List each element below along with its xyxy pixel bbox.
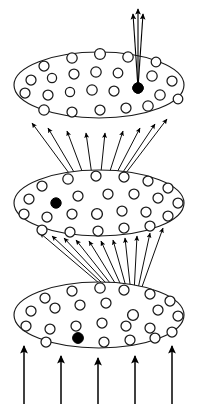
middle-layer-unit-9 [103,189,113,199]
bottom-layer-unit-11 [153,305,163,315]
top-layer-unit-13 [20,88,30,98]
bottom-layer-unit-6 [165,296,175,306]
bottom-layer-unit-16 [97,318,107,328]
middle-layer-unit-7 [24,194,34,204]
bottom-layer-unit-14 [45,324,55,334]
top-layer-unit-9 [91,67,101,77]
top-layer-unit-2 [67,53,77,63]
bottom-layer-unit-23 [150,333,160,343]
top-layer-unit-15 [65,87,74,96]
input-arrows-group [24,346,172,404]
top-layer-unit-14 [43,90,53,100]
bottom-layer-unit-8 [50,303,60,313]
bottom-layer-unit-7 [26,306,36,316]
middle-layer-unit-3 [91,171,101,181]
top-layer-unit-20 [39,105,49,115]
top-layer-unit-3 [95,49,106,60]
middle-layer-unit-4 [119,172,129,182]
bottom-layer-unit-20 [41,337,51,347]
output-origin-dot [133,83,143,93]
bottom-layer-unit-22 [125,335,135,345]
middle-layer-unit-18 [163,211,173,221]
top-layer [14,49,184,118]
middle-layer-unit-12 [173,198,183,208]
bottom-layer-unit-13 [21,321,31,331]
top-layer-unit-19 [173,94,183,104]
middle-layer [14,170,184,237]
bottom-layer-unit-10 [101,298,111,308]
middle-layer-unit-10 [129,189,139,199]
middle-layer-unit-19 [37,225,47,235]
bottom-layer-unit-17 [121,321,131,331]
middle-layer-unit-15 [67,209,77,219]
top-layer-unit-1 [39,61,49,71]
top-layer-unit-18 [155,90,165,100]
middle-layer-unit-21 [93,226,103,236]
bottom-layer-unit-12 [173,311,183,321]
bottom-layer-unit-5 [145,289,155,299]
middle-layer-unit-5 [143,176,153,186]
top-layer-unit-23 [121,103,131,113]
bottom-layer-unit-21 [99,337,109,347]
bottom-layer-unit-18 [145,323,155,333]
middle-layer-unit-1 [37,181,47,191]
bottom-layer-unit-4 [119,285,129,295]
middle-layer-unit-23 [145,221,155,231]
middle-layer-unit-17 [141,207,151,217]
middle-layer-unit-2 [63,174,73,184]
bottom-layer-unit-15 [71,321,81,331]
middle-layer-unit-6 [163,183,173,193]
top-layer-unit-24 [143,101,153,111]
bottom-layer [14,282,184,348]
figure-root: Hierarchical three-layer fan-in / fan-ou… [0,0,197,408]
bottom-layer-unit-1 [40,293,50,303]
top-layer-unit-12 [167,76,177,86]
top-layer-unit-6 [26,75,36,85]
middle-layer-unit-22 [119,223,129,233]
bottom-layer-unit-3 [95,283,105,293]
top-layer-unit-17 [109,86,119,96]
middle-layer-unit-8 [73,191,83,201]
bottom-layer-unit-9 [75,300,85,310]
middle-layer-unit-14 [42,212,52,222]
middle-layer-unit-20 [65,227,75,237]
middle-layer-unit-13 [19,209,29,219]
layered-fan-diagram: Hierarchical three-layer fan-in / fan-ou… [0,0,197,408]
top-layer-unit-7 [47,73,56,82]
top-layer-unit-21 [67,107,77,117]
top-layer-unit-10 [113,68,123,78]
top-layer-unit-5 [151,57,161,67]
bottom-layer-unit-2 [67,286,77,296]
top-layer-unit-11 [147,71,157,81]
middle-layer-marked-unit [51,198,61,208]
layers-group [14,49,184,348]
bottom-layer-unit-19 [167,327,177,337]
top-layer-unit-4 [123,52,133,62]
top-layer-unit-22 [95,105,105,115]
bottom-layer-source-unit [128,310,139,321]
middle-layer-source-unit [92,209,103,220]
middle-layer-unit-11 [153,193,163,203]
middle-layer-unit-16 [117,206,127,216]
top-layer-unit-16 [87,85,97,95]
bottom-layer-marked-unit [73,333,84,344]
top-layer-unit-8 [69,69,79,79]
